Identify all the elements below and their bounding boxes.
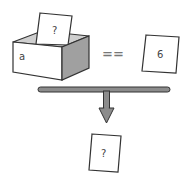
- down-arrow-icon: [99, 91, 114, 123]
- result-card: ?: [89, 134, 121, 172]
- compare-card: 6: [142, 35, 179, 73]
- variable-name-label: a: [19, 51, 25, 62]
- compare-card-label: 6: [157, 49, 163, 60]
- box-card: ?: [36, 13, 72, 45]
- equality-operator: ==: [102, 46, 124, 61]
- box-card-label: ?: [52, 25, 57, 36]
- comparison-diagram: ? a == 6 ?: [0, 0, 190, 181]
- result-card-label: ?: [101, 148, 106, 159]
- variable-box: ? a: [13, 13, 89, 80]
